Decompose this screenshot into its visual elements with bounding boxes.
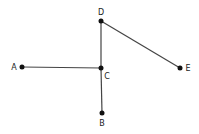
node-label-e: E [185, 64, 190, 73]
edge-a-c [22, 67, 101, 68]
edge-d-e [101, 21, 180, 68]
node-label-c: C [104, 72, 110, 81]
node-b [100, 111, 105, 116]
node-label-a: A [11, 63, 17, 72]
node-label-b: B [99, 119, 105, 128]
graph-diagram: ABCDE [0, 0, 199, 134]
node-d [99, 19, 104, 24]
node-label-d: D [98, 8, 104, 17]
node-e [178, 66, 183, 71]
node-a [20, 65, 25, 70]
node-c [99, 66, 104, 71]
edge-c-b [101, 68, 102, 113]
